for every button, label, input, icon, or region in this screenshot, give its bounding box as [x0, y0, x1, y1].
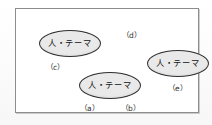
annotation-label-e: （e） — [168, 85, 187, 93]
diagram-frame: 人・テーマ 人・テーマ 人・テーマ （c） （d） （a） （b） （e） — [15, 8, 199, 113]
annotation-label-c: （c） — [46, 64, 64, 72]
annotation-label-b: （b） — [121, 105, 140, 113]
annotation-label-a: （a） — [80, 105, 99, 113]
annotation-label-d: （d） — [122, 32, 141, 40]
node-ellipse-a: 人・テーマ — [79, 72, 141, 99]
node-ellipse-e-label: 人・テーマ — [156, 59, 200, 68]
node-ellipse-a-label: 人・テーマ — [88, 81, 132, 90]
node-ellipse-c: 人・テーマ — [39, 30, 101, 57]
figure-container: 人・テーマ 人・テーマ 人・テーマ （c） （d） （a） （b） （e） — [0, 0, 212, 125]
node-ellipse-c-label: 人・テーマ — [48, 39, 92, 48]
node-ellipse-e: 人・テーマ — [147, 50, 209, 77]
